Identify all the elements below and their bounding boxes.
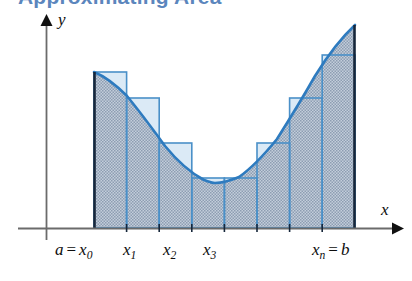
figure-canvas [0,0,412,281]
left-boundary-label: a=x0 [55,240,92,262]
right-boundary-equals: = [328,240,338,259]
y-axis-label: y [58,10,66,30]
partition-symbol-3: x [203,240,211,259]
x-axis-arrowhead [392,223,404,235]
right-boundary-index: n [320,249,326,262]
y-axis-arrowhead [41,14,53,26]
partition-symbol-2: x [163,240,171,259]
left-boundary-symbol: x [79,240,87,259]
left-boundary-equals: = [67,240,77,259]
partition-index-2: 2 [171,249,177,262]
partition-symbol-1: x [123,240,131,259]
right-boundary-symbol: x [312,240,320,259]
partition-label-2: x2 [163,240,176,262]
right-boundary-label: xn=b [312,240,349,262]
partition-index-3: 3 [211,249,217,262]
riemann-sum-figure: Approximating Area [0,0,412,281]
left-boundary-index: 0 [87,249,93,262]
partition-index-1: 1 [131,249,137,262]
left-boundary-prefix: a [55,240,64,259]
partition-label-1: x1 [123,240,136,262]
right-boundary-suffix: b [341,240,350,259]
partition-label-3: x3 [203,240,216,262]
x-axis-label: x [381,200,389,220]
